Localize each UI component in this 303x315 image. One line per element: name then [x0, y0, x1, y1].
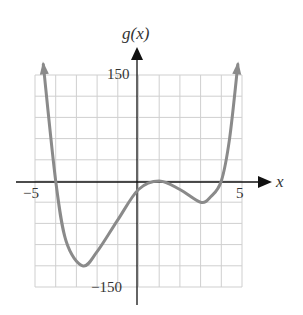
grid [35, 75, 242, 287]
y-tick-top: 150 [107, 66, 130, 83]
y-axis-arrow-icon [131, 47, 143, 60]
x-axis-arrow-icon [258, 176, 272, 188]
curve-g [43, 64, 238, 266]
chart-canvas [0, 0, 303, 315]
y-tick-bottom: −150 [91, 279, 122, 296]
x-tick-left: −5 [23, 185, 39, 202]
x-axis-label: x [276, 172, 284, 192]
x-tick-right: 5 [236, 185, 244, 202]
y-axis-label: g(x) [122, 24, 149, 44]
